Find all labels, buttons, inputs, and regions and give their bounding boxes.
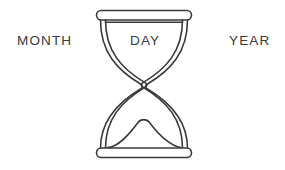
label-month: MONTH xyxy=(17,34,72,48)
illustration-canvas: MONTH DAY YEAR xyxy=(0,0,285,170)
sand-mound xyxy=(108,120,181,148)
hourglass-icon xyxy=(0,0,285,170)
label-year: YEAR xyxy=(229,34,270,48)
label-day: DAY xyxy=(130,34,160,48)
hourglass-top-cap xyxy=(97,11,192,21)
hourglass-bottom-cap xyxy=(97,148,192,158)
